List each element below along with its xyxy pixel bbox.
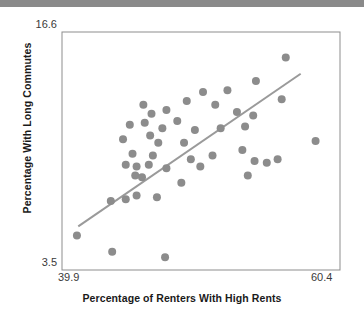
plot-frame <box>62 32 340 270</box>
data-point <box>149 152 157 160</box>
data-point <box>139 101 147 109</box>
data-point <box>183 97 191 105</box>
data-point <box>145 161 153 169</box>
data-point <box>211 101 219 109</box>
data-point <box>274 155 282 163</box>
data-point <box>162 164 170 172</box>
data-point <box>148 110 156 118</box>
data-point <box>199 88 207 96</box>
data-point <box>187 155 195 163</box>
data-point <box>162 106 170 114</box>
data-point <box>133 192 141 200</box>
top-bar <box>0 0 364 7</box>
data-point <box>119 135 127 143</box>
data-point <box>249 112 257 120</box>
data-point <box>141 119 149 127</box>
data-point <box>252 77 260 85</box>
data-point <box>133 162 141 170</box>
data-point <box>173 117 181 125</box>
data-point <box>107 197 115 205</box>
data-point <box>282 53 290 61</box>
data-point <box>73 231 81 239</box>
data-point <box>312 137 320 145</box>
data-point <box>158 124 166 132</box>
data-point <box>122 195 130 203</box>
data-point <box>263 159 271 167</box>
data-point <box>122 161 130 169</box>
data-point <box>241 122 249 130</box>
data-point <box>244 172 252 180</box>
data-point <box>196 162 204 170</box>
scatter-plot-figure: Percentage With Long Commutes Percentage… <box>0 7 364 318</box>
data-point <box>278 95 286 103</box>
data-point <box>233 108 241 116</box>
data-point <box>146 132 154 140</box>
data-point <box>217 124 225 132</box>
data-point <box>191 126 199 134</box>
data-point <box>161 253 169 261</box>
data-point <box>108 248 116 256</box>
data-point <box>153 193 161 201</box>
data-point <box>177 179 185 187</box>
data-point <box>138 173 146 181</box>
data-point <box>223 86 231 94</box>
plot-canvas <box>0 7 364 318</box>
data-point <box>154 139 162 147</box>
data-point <box>131 172 139 180</box>
data-point <box>238 146 246 154</box>
data-point <box>126 121 134 129</box>
data-point <box>129 150 137 158</box>
data-point <box>209 152 217 160</box>
data-point <box>180 139 188 147</box>
data-point <box>251 157 259 165</box>
